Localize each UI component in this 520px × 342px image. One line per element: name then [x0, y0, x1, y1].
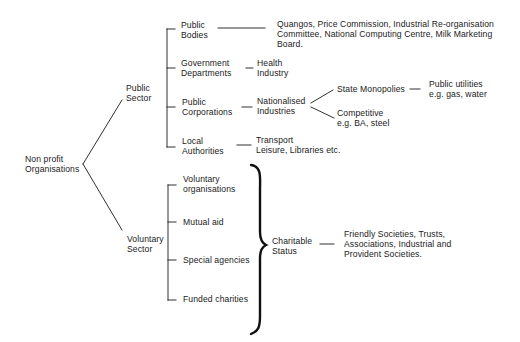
- root-to-voluntary-line: [83, 164, 122, 230]
- funded-charities-label: Funded charities: [183, 294, 248, 304]
- to-state-monopolies-line: [311, 90, 333, 103]
- public-bodies-detail: Quangos, Price Commission, Industrial Re…: [277, 19, 494, 49]
- public-sector-label: Public Sector: [126, 83, 151, 103]
- public-corps-label: Public Corporations: [182, 97, 232, 117]
- charitable-detail: Friendly Societies, Trusts, Associations…: [344, 229, 451, 259]
- organisation-tree-diagram: Non profit Organisations Public Sector P…: [0, 0, 520, 342]
- gov-depts-detail: Health Industry: [257, 58, 288, 78]
- to-competitive-line: [311, 107, 334, 118]
- special-agencies-label: Special agencies: [183, 255, 250, 265]
- state-monopolies-label: State Monopolies: [337, 84, 405, 94]
- competitive-label: Competitive e.g. BA, steel: [337, 108, 390, 128]
- mutual-aid-label: Mutual aid: [183, 217, 224, 227]
- voluntary-sector-label: Voluntary Sector: [127, 234, 164, 254]
- public-bodies-label: Public Bodies: [181, 20, 208, 40]
- voluntary-orgs-label: Voluntary organisations: [183, 174, 235, 194]
- nationalised-industries-label: Nationalised Industries: [257, 96, 306, 116]
- root-to-public-line: [83, 100, 122, 164]
- public-utilities-detail: Public utilities e.g. gas, water: [429, 79, 487, 99]
- gov-depts-label: Government Departments: [181, 58, 231, 78]
- root-label: Non profit Organisations: [25, 154, 79, 174]
- local-auth-detail: Transport Leisure, Libraries etc.: [256, 135, 340, 155]
- charitable-status-label: Charitable Status: [272, 236, 312, 256]
- local-auth-label: Local Authorities: [182, 136, 224, 156]
- curly-brace: [251, 165, 266, 334]
